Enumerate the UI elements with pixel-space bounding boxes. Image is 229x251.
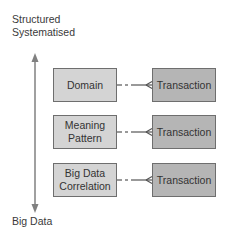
- crows-foot-connector-icon: [117, 129, 152, 136]
- crows-foot-connector-icon: [117, 82, 152, 89]
- axis-bottom-label: Big Data: [12, 215, 52, 228]
- crows-foot-connector-icon: [117, 177, 152, 184]
- connectors: [0, 0, 229, 251]
